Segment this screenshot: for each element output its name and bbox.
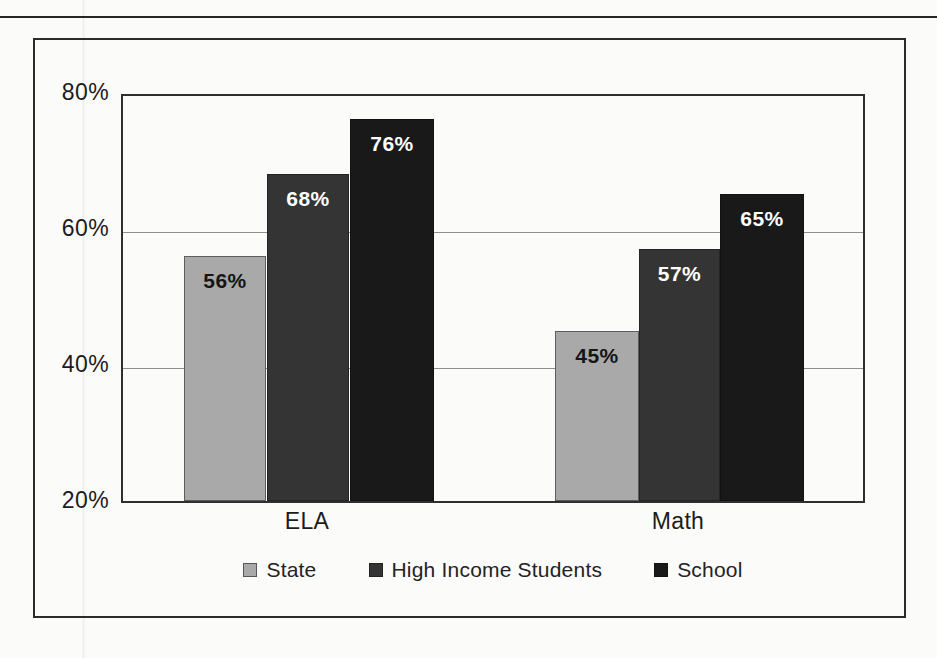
y-axis-tick-20: 20% (62, 487, 109, 514)
chart-legend: State High Income Students School (121, 554, 865, 586)
legend-item-school[interactable]: School (654, 558, 742, 582)
legend-item-label: State (266, 558, 316, 582)
bar-ela-school[interactable]: 76% (350, 119, 434, 501)
page-top-rule (0, 16, 937, 18)
legend-item-high-income-students[interactable]: High Income Students (369, 558, 603, 582)
legend-swatch-icon (369, 563, 383, 577)
x-axis-label-math: Math (652, 508, 704, 535)
bar-value-label: 76% (351, 132, 433, 156)
bar-value-label: 68% (268, 187, 348, 211)
legend-swatch-icon (243, 563, 257, 577)
bar-ela-state[interactable]: 56% (184, 256, 266, 501)
x-axis-label-ela: ELA (285, 508, 329, 535)
y-axis-tick-40: 40% (62, 351, 109, 378)
legend-item-label: School (677, 558, 742, 582)
bar-value-label: 45% (556, 344, 638, 368)
bar-math-state[interactable]: 45% (555, 331, 639, 501)
x-axis-category-labels: ELA Math (121, 508, 865, 542)
bar-value-label: 65% (721, 207, 803, 231)
y-axis-tick-labels: 80% 60% 40% 20% (33, 94, 109, 503)
legend-item-state[interactable]: State (243, 558, 316, 582)
bar-value-label: 56% (185, 269, 265, 293)
bar-math-school[interactable]: 65% (720, 194, 804, 501)
y-axis-tick-60: 60% (62, 215, 109, 242)
bar-math-high-income-students[interactable]: 57% (639, 249, 720, 501)
y-axis-tick-80: 80% (62, 79, 109, 106)
bar-ela-high-income-students[interactable]: 68% (267, 174, 349, 501)
legend-item-label: High Income Students (392, 558, 603, 582)
bar-value-label: 57% (640, 262, 719, 286)
legend-swatch-icon (654, 563, 668, 577)
plot-area: 56% 68% 76% 45% 57% 65% (121, 94, 865, 503)
